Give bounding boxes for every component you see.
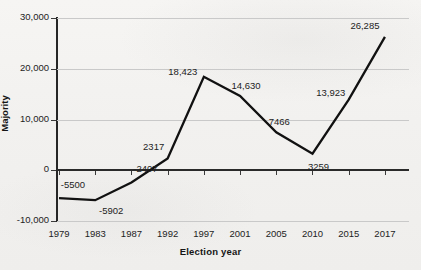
x-tick-label: 1983 xyxy=(85,228,106,239)
x-tick-mark xyxy=(312,171,313,175)
line-chart: 30,00020,00010,0000-10,000 Majority -550… xyxy=(0,0,421,270)
y-tick-mark xyxy=(51,221,56,222)
y-axis-title: Majority xyxy=(0,95,10,131)
x-tick-mark xyxy=(276,171,277,175)
x-tick-label: 2010 xyxy=(302,228,323,239)
plot-area: -5500-5902-2407231718,42314,630746632591… xyxy=(57,18,409,221)
data-label-1997: 18,423 xyxy=(168,66,197,77)
x-tick-label: 1987 xyxy=(121,228,142,239)
x-tick-label: 1997 xyxy=(193,228,214,239)
data-label-2017: 26,285 xyxy=(350,20,379,31)
x-tick-mark xyxy=(95,171,96,175)
x-tick-label: 2017 xyxy=(374,228,395,239)
y-tick-mark xyxy=(51,69,56,70)
data-label-2001: 14,630 xyxy=(232,80,261,91)
x-tick-mark xyxy=(59,171,60,175)
y-axis-tick-labels: 30,00020,00010,0000-10,000 xyxy=(0,0,49,270)
x-tick-label: 1979 xyxy=(48,228,69,239)
series-line-majority xyxy=(57,18,409,221)
gridline--10000 xyxy=(57,221,409,222)
x-tick-label: 1992 xyxy=(157,228,178,239)
data-label-2005: 7466 xyxy=(269,116,290,127)
data-label-1992: 2317 xyxy=(143,141,164,152)
y-tick-mark xyxy=(51,18,56,19)
x-tick-mark xyxy=(168,171,169,175)
data-label-1987: -2407 xyxy=(133,163,157,174)
y-tick-mark xyxy=(51,170,56,171)
x-axis-title: Election year xyxy=(0,246,421,257)
data-label-2015: 13,923 xyxy=(316,87,345,98)
x-tick-mark xyxy=(385,171,386,175)
x-tick-mark xyxy=(240,171,241,175)
y-tick-label: -10,000 xyxy=(17,215,49,225)
x-tick-label: 2015 xyxy=(338,228,359,239)
y-tick-label: 20,000 xyxy=(20,63,49,73)
x-tick-mark xyxy=(131,171,132,175)
y-tick-label: 0 xyxy=(44,164,49,174)
x-tick-mark xyxy=(349,171,350,175)
majority-trend-line xyxy=(59,37,385,200)
data-label-1979: -5500 xyxy=(61,179,85,190)
data-label-2010: 3259 xyxy=(308,161,329,172)
y-tick-mark xyxy=(51,120,56,121)
x-tick-label: 2005 xyxy=(266,228,287,239)
data-label-1983: -5902 xyxy=(99,205,123,216)
x-tick-mark xyxy=(204,171,205,175)
y-tick-label: 10,000 xyxy=(20,114,49,124)
y-tick-label: 30,000 xyxy=(20,12,49,22)
x-tick-label: 2001 xyxy=(229,228,250,239)
